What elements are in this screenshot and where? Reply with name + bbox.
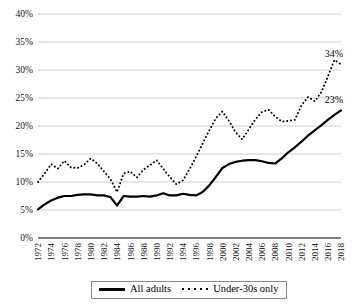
x-axis-tick-label: 2006 bbox=[257, 243, 267, 262]
x-axis-tick-label: 1972 bbox=[33, 243, 43, 261]
endpoint-value-label: 23% bbox=[325, 94, 343, 105]
x-axis-tick-label: 2002 bbox=[231, 243, 241, 261]
legend-item-under-30s-only[interactable]: Under-30s only bbox=[182, 284, 278, 295]
x-axis-tick-label: 1994 bbox=[178, 243, 188, 262]
x-axis-tick-label: 1976 bbox=[60, 243, 70, 262]
y-axis-tick-label: 10% bbox=[16, 177, 34, 187]
legend-label-under-30s-only: Under-30s only bbox=[213, 284, 278, 295]
x-axis-tick-label: 2000 bbox=[218, 243, 228, 262]
x-axis-tick-label: 1992 bbox=[165, 243, 175, 261]
x-axis-tick-label: 1974 bbox=[46, 243, 56, 262]
x-axis-tick-label: 2004 bbox=[244, 243, 254, 262]
x-axis-tick-label: 1988 bbox=[139, 243, 149, 262]
x-axis-tick-label: 1978 bbox=[73, 243, 83, 262]
x-axis-tick-label: 1982 bbox=[99, 243, 109, 261]
x-axis-tick-label: 1984 bbox=[112, 243, 122, 262]
y-axis-tick-label: 30% bbox=[16, 65, 34, 75]
x-axis-tick-label: 2018 bbox=[336, 243, 346, 262]
y-axis-tick-label: 15% bbox=[16, 149, 34, 159]
x-axis-tick-label: 2008 bbox=[270, 243, 280, 262]
x-axis-tick-label: 2016 bbox=[323, 243, 333, 262]
x-axis-tick-label: 2014 bbox=[310, 243, 320, 262]
endpoint-value-label: 34% bbox=[325, 48, 343, 59]
y-axis-tick-label: 35% bbox=[16, 37, 34, 47]
line-chart: 0%5%10%15%20%25%30%35%40%197219741976197… bbox=[0, 0, 360, 308]
x-axis-tick-label: 1998 bbox=[205, 243, 215, 262]
x-axis-tick-label: 1980 bbox=[86, 243, 96, 262]
x-axis-tick-label: 2010 bbox=[284, 243, 294, 262]
x-axis-tick-label: 1996 bbox=[191, 243, 201, 262]
x-axis-tick-label: 1990 bbox=[152, 243, 162, 262]
x-axis-tick-label: 1986 bbox=[126, 243, 136, 262]
series-line-all-adults bbox=[38, 110, 341, 209]
x-axis-tick-label: 2012 bbox=[297, 243, 307, 261]
y-axis-tick-label: 40% bbox=[16, 9, 34, 19]
legend-swatch-solid-line-icon bbox=[99, 285, 125, 293]
chart-plot-area: 0%5%10%15%20%25%30%35%40%197219741976197… bbox=[0, 0, 360, 308]
y-axis-tick-label: 0% bbox=[20, 233, 33, 243]
y-axis-tick-label: 20% bbox=[16, 121, 34, 131]
chart-legend: All adults Under-30s only bbox=[91, 281, 287, 299]
legend-label-all-adults: All adults bbox=[130, 284, 171, 295]
legend-swatch-dotted-line-icon bbox=[182, 285, 208, 293]
legend-item-all-adults[interactable]: All adults bbox=[99, 284, 171, 295]
y-axis-tick-label: 25% bbox=[16, 93, 34, 103]
y-axis-tick-label: 5% bbox=[20, 205, 33, 215]
